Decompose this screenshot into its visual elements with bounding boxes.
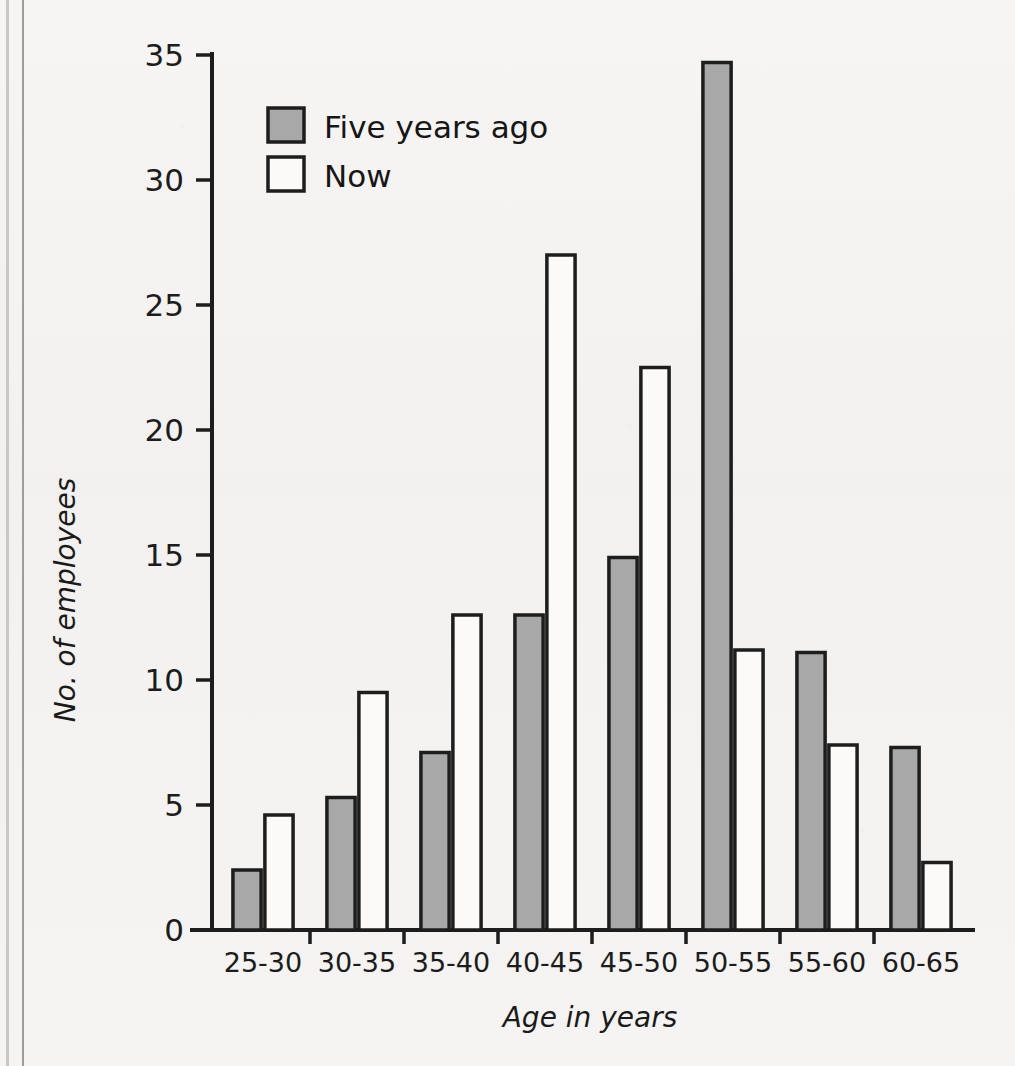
y-tick-label: 35 (145, 37, 184, 73)
bar-25-30-five-years-ago (233, 870, 261, 930)
bar-45-50-now (641, 368, 669, 931)
bar-60-65-now (923, 863, 951, 931)
bar-chart: 05101520253035 25-3030-3535-4040-4545-50… (0, 0, 1015, 1066)
bar-25-30-now (265, 815, 293, 930)
bar-50-55-now (735, 650, 763, 930)
y-axis-tick-labels: 05101520253035 (145, 37, 184, 948)
y-tick-label: 30 (145, 162, 184, 198)
x-tick-label-30-35: 30-35 (318, 947, 396, 978)
x-axis-tick-marks (310, 930, 874, 944)
x-tick-label-50-55: 50-55 (694, 947, 772, 978)
y-tick-label: 10 (145, 662, 184, 698)
legend-label-five-years-ago: Five years ago (324, 109, 548, 145)
legend-label-now: Now (324, 158, 392, 194)
x-tick-label-45-50: 45-50 (600, 947, 678, 978)
x-tick-label-60-65: 60-65 (882, 947, 960, 978)
x-axis-title: Age in years (501, 1001, 678, 1034)
y-tick-label: 15 (145, 537, 184, 573)
y-tick-label: 5 (164, 787, 184, 823)
y-axis-ticks (196, 55, 212, 930)
bar-40-45-five-years-ago (515, 615, 543, 930)
bar-30-35-now (359, 693, 387, 931)
x-tick-label-35-40: 35-40 (412, 947, 490, 978)
x-tick-label-25-30: 25-30 (224, 947, 302, 978)
y-tick-label: 20 (145, 412, 184, 448)
bar-55-60-now (829, 745, 857, 930)
x-tick-label-55-60: 55-60 (788, 947, 866, 978)
bar-45-50-five-years-ago (609, 558, 637, 931)
bar-35-40-now (453, 615, 481, 930)
x-axis-tick-labels: 25-3030-3535-4040-4545-5050-5555-6060-65 (224, 947, 960, 978)
chart-svg: 05101520253035 25-3030-3535-4040-4545-50… (0, 0, 1015, 1066)
bar-35-40-five-years-ago (421, 753, 449, 931)
chart-legend: Five years ago Now (268, 108, 548, 194)
bar-50-55-five-years-ago (703, 63, 731, 931)
x-tick-label-40-45: 40-45 (506, 947, 584, 978)
y-tick-label: 25 (145, 287, 184, 323)
y-tick-label: 0 (164, 912, 184, 948)
bar-60-65-five-years-ago (891, 748, 919, 931)
bar-55-60-five-years-ago (797, 653, 825, 931)
y-axis-title: No. of employees (49, 478, 82, 723)
legend-swatch-now (268, 157, 304, 191)
legend-swatch-five-years-ago (268, 108, 304, 142)
bar-30-35-five-years-ago (327, 798, 355, 931)
bar-40-45-now (547, 255, 575, 930)
